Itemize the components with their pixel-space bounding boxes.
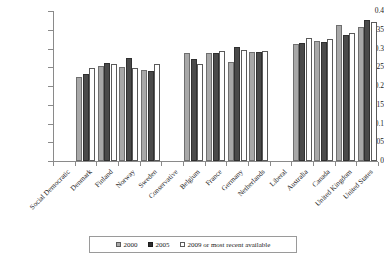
bar bbox=[197, 64, 203, 161]
bar bbox=[83, 74, 89, 161]
legend-label: 2000 bbox=[124, 241, 138, 249]
legend-swatch-2005-icon bbox=[148, 242, 153, 247]
bar bbox=[306, 38, 312, 161]
bar bbox=[191, 59, 197, 161]
bar bbox=[336, 25, 342, 161]
bar bbox=[349, 33, 355, 161]
x-axis-tick bbox=[118, 162, 119, 166]
x-axis-tick bbox=[183, 162, 184, 166]
bar bbox=[141, 70, 147, 162]
x-axis-tick bbox=[161, 162, 162, 166]
bar bbox=[234, 47, 240, 161]
x-axis-tick bbox=[270, 162, 271, 166]
x-axis-tick bbox=[356, 162, 357, 166]
chart-legend: 200020052009 or most recent available bbox=[89, 236, 297, 253]
bar bbox=[364, 20, 370, 161]
x-axis-tick bbox=[335, 162, 336, 166]
legend-label: 2005 bbox=[156, 241, 170, 249]
legend-entry: 2005 bbox=[148, 241, 170, 249]
legend-entry: 2009 or most recent available bbox=[180, 241, 271, 249]
bar bbox=[184, 53, 190, 161]
bar bbox=[126, 58, 132, 161]
bar bbox=[219, 51, 225, 161]
bar bbox=[89, 68, 95, 161]
bar bbox=[321, 42, 327, 161]
bar bbox=[241, 50, 247, 161]
bar bbox=[327, 39, 333, 161]
bar bbox=[256, 52, 262, 161]
bar bbox=[249, 52, 255, 162]
bar bbox=[228, 62, 234, 161]
bar bbox=[154, 64, 160, 162]
x-axis-tick bbox=[378, 162, 379, 166]
legend-entry: 2000 bbox=[116, 241, 138, 249]
x-axis-tick bbox=[226, 162, 227, 166]
bar-chart: 00.050.10.150.20.250.30.350.4 Social Dem… bbox=[0, 0, 384, 262]
bar bbox=[111, 64, 117, 161]
legend-swatch-2009-icon bbox=[180, 242, 185, 247]
bar bbox=[358, 27, 364, 161]
bar bbox=[132, 68, 138, 161]
bar bbox=[119, 67, 125, 161]
x-axis-tick bbox=[75, 162, 76, 166]
x-axis-tick bbox=[313, 162, 314, 166]
bar bbox=[76, 77, 82, 161]
legend-swatch-2000-icon bbox=[116, 242, 121, 247]
legend-label: 2009 or most recent available bbox=[188, 241, 271, 249]
x-axis-tick bbox=[205, 162, 206, 166]
bar bbox=[314, 41, 320, 161]
plot-area bbox=[53, 11, 378, 161]
x-axis-tick bbox=[248, 162, 249, 166]
bar bbox=[293, 44, 299, 161]
x-axis-tick bbox=[96, 162, 97, 166]
bar bbox=[148, 71, 154, 161]
x-axis-tick bbox=[291, 162, 292, 166]
bar bbox=[343, 35, 349, 161]
bar bbox=[206, 53, 212, 161]
x-axis-line bbox=[53, 161, 378, 162]
x-axis-tick bbox=[53, 162, 54, 166]
bar bbox=[262, 51, 268, 161]
bar bbox=[104, 63, 110, 161]
bar bbox=[299, 43, 305, 162]
bar bbox=[213, 53, 219, 161]
bar bbox=[98, 66, 104, 161]
x-axis-tick bbox=[140, 162, 141, 166]
bar bbox=[371, 22, 377, 162]
